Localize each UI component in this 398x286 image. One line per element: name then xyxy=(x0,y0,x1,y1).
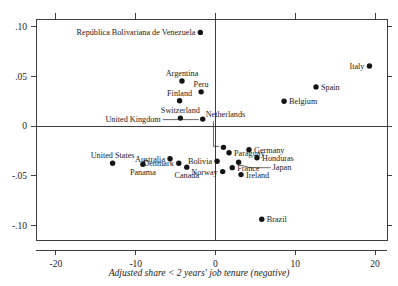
data-point-label: Switzerland xyxy=(161,106,200,115)
data-point-label: Bolivia xyxy=(188,157,212,166)
reference-lines xyxy=(36,19,387,240)
plot-frame xyxy=(36,19,387,250)
data-point-label: República Bolivariana de Venezuela xyxy=(77,28,196,37)
x-tick-label: -20 xyxy=(50,259,63,269)
data-point xyxy=(220,169,225,174)
chart-canvas: .10.050-.05-.10 -20-1001020 República Bo… xyxy=(0,0,398,286)
x-tick-label: 10 xyxy=(291,259,301,269)
data-point-label: United States xyxy=(91,151,135,160)
data-point xyxy=(281,99,286,104)
data-point xyxy=(313,84,318,89)
data-point xyxy=(177,98,182,103)
data-point-label: Ireland xyxy=(246,171,269,180)
data-point xyxy=(214,159,219,164)
data-point xyxy=(221,145,226,150)
data-point-label: Peru xyxy=(194,80,209,89)
data-point xyxy=(367,63,372,68)
data-point xyxy=(198,30,203,35)
axis-ticks xyxy=(31,13,392,255)
data-point xyxy=(259,216,264,221)
data-point-label: Belgium xyxy=(289,97,318,106)
y-tick-label: .10 xyxy=(15,22,27,32)
x-axis-title: Adjusted share < 2 years' job tenure (ne… xyxy=(108,267,290,279)
data-point-label: Netherlands xyxy=(206,110,246,119)
y-tick-label: .05 xyxy=(15,72,27,82)
data-point-label: Italy xyxy=(349,62,365,71)
data-point xyxy=(230,165,235,170)
y-tick-label: -.10 xyxy=(12,221,27,231)
data-point-label: Denmark xyxy=(143,159,174,168)
data-point-label: Spain xyxy=(321,83,340,92)
y-axis-tick-labels: .10.050-.05-.10 xyxy=(12,22,27,230)
y-tick-label: -.05 xyxy=(12,171,27,181)
data-point xyxy=(238,172,243,177)
y-tick-label: 0 xyxy=(22,121,27,131)
data-point-label: Japan xyxy=(273,163,292,172)
x-tick-label: 20 xyxy=(370,259,380,269)
data-point-label: Honduras xyxy=(262,154,294,163)
data-point xyxy=(200,116,205,121)
data-point xyxy=(179,78,184,83)
data-point-label: Norway xyxy=(191,168,218,177)
data-point xyxy=(110,160,115,165)
data-point-label: Panama xyxy=(130,168,156,177)
data-point xyxy=(226,150,231,155)
data-point-label: Finland xyxy=(167,89,192,98)
scatter-chart: .10.050-.05-.10 -20-1001020 República Bo… xyxy=(0,0,398,286)
data-point-label: Paraguay xyxy=(234,149,265,158)
data-point-label: Argentina xyxy=(166,69,199,78)
data-point-label: Brazil xyxy=(267,215,288,224)
data-point xyxy=(178,115,183,120)
data-point xyxy=(198,89,203,94)
data-point-label: United Kingdom xyxy=(105,115,161,124)
data-point xyxy=(176,160,181,165)
